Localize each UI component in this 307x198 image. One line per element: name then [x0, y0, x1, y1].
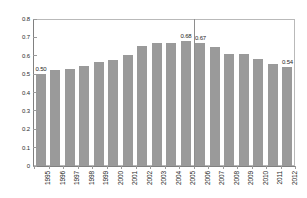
bar-2005[interactable] — [181, 41, 191, 166]
x-axis-tick — [121, 166, 122, 169]
bar-slot — [121, 19, 136, 166]
x-axis-tick — [266, 166, 267, 169]
bar-2011[interactable] — [268, 64, 278, 166]
x-axis-tick — [237, 166, 238, 169]
x-axis-label-2003: 2003 — [160, 171, 167, 185]
x-axis-label-1998: 1998 — [88, 171, 95, 185]
y-axis-tick-label: 0.2 — [4, 126, 30, 132]
y-axis-tick-label: 0.8 — [4, 16, 30, 22]
x-axis-label-2005: 2005 — [189, 171, 196, 185]
x-axis-label-2007: 2007 — [218, 171, 225, 185]
bar-slot — [179, 19, 194, 166]
bar-slot — [281, 19, 296, 166]
bar-slot — [237, 19, 252, 166]
y-axis-tick-label: 0.1 — [4, 145, 30, 151]
x-axis-tick — [34, 166, 35, 169]
period-divider — [194, 19, 195, 167]
x-axis-tick — [252, 166, 253, 169]
x-axis-tick — [107, 166, 108, 169]
x-axis-tick — [165, 166, 166, 169]
x-axis-label-2012: 2012 — [291, 171, 298, 185]
bar-1995[interactable] — [36, 74, 46, 166]
x-axis-label-1999: 1999 — [102, 171, 109, 185]
x-axis-tick — [49, 166, 50, 169]
bar-2004[interactable] — [166, 43, 176, 166]
bar-2007[interactable] — [210, 47, 220, 166]
x-axis-label-2010: 2010 — [262, 171, 269, 185]
bar-slot — [266, 19, 281, 166]
x-axis-label-2001: 2001 — [131, 171, 138, 185]
x-axis-tick — [63, 166, 64, 169]
x-axis-label-1996: 1996 — [59, 171, 66, 185]
bar-value-label-2005: 0.68 — [180, 33, 191, 39]
bar-2010[interactable] — [253, 59, 263, 166]
x-axis-tick — [92, 166, 93, 169]
bar-value-label-1995: 0.50 — [35, 66, 46, 72]
x-axis-tick — [281, 166, 282, 169]
bar-2009[interactable] — [239, 54, 249, 166]
bar-slot — [223, 19, 238, 166]
bar-value-label-2012: 0.54 — [282, 59, 293, 65]
bar-slot — [92, 19, 107, 166]
bar-1998[interactable] — [79, 66, 89, 166]
bar-slot — [107, 19, 122, 166]
y-axis-tick-label: 0.3 — [4, 108, 30, 114]
x-axis-label-2008: 2008 — [233, 171, 240, 185]
bar-2003[interactable] — [152, 43, 162, 166]
bar-chart-figure: 00.10.20.30.40.50.60.70.8 19951996199719… — [0, 0, 307, 198]
x-axis-tick — [150, 166, 151, 169]
bar-2006[interactable] — [195, 43, 205, 166]
bar-slot — [252, 19, 267, 166]
x-axis-label-2004: 2004 — [175, 171, 182, 185]
y-axis-tick-label: 0 — [4, 163, 30, 169]
x-axis-tick — [208, 166, 209, 169]
y-axis-tick-label: 0.4 — [4, 90, 30, 96]
x-axis-tick — [136, 166, 137, 169]
bar-2008[interactable] — [224, 54, 234, 166]
y-axis-tick-label: 0.7 — [4, 34, 30, 40]
bar-slot — [78, 19, 93, 166]
bar-slot — [136, 19, 151, 166]
x-axis-label-2006: 2006 — [204, 171, 211, 185]
bar-2002[interactable] — [137, 46, 147, 166]
bar-slot — [150, 19, 165, 166]
x-axis-label-2011: 2011 — [276, 171, 283, 185]
x-axis-label-2009: 2009 — [247, 171, 254, 185]
y-axis-tick-label: 0.6 — [4, 53, 30, 59]
bar-1997[interactable] — [65, 69, 75, 166]
x-axis-tick — [179, 166, 180, 169]
bar-value-label-2006: 0.67 — [195, 35, 206, 41]
bar-2012[interactable] — [282, 67, 292, 166]
bar-slot — [34, 19, 49, 166]
bars-layer — [34, 19, 295, 166]
bar-2000[interactable] — [108, 60, 118, 166]
bar-1999[interactable] — [94, 62, 104, 166]
bar-1996[interactable] — [50, 70, 60, 166]
x-axis-tick — [78, 166, 79, 169]
x-axis-label-2002: 2002 — [146, 171, 153, 185]
y-axis-tick-label: 0.5 — [4, 71, 30, 77]
bar-slot — [49, 19, 64, 166]
x-axis-label-1997: 1997 — [73, 171, 80, 185]
x-axis-label-2000: 2000 — [117, 171, 124, 185]
x-axis-tick — [223, 166, 224, 169]
bar-slot — [63, 19, 78, 166]
x-axis-label-1995: 1995 — [44, 171, 51, 185]
bar-slot — [194, 19, 209, 166]
bar-2001[interactable] — [123, 55, 133, 166]
bar-slot — [165, 19, 180, 166]
bar-slot — [208, 19, 223, 166]
x-axis-tick — [295, 166, 296, 169]
